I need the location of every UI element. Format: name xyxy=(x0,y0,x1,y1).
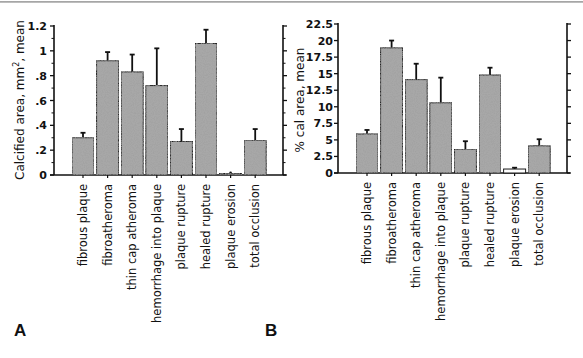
panel-b-ytick-label: 7.5 xyxy=(314,117,334,130)
panel-a-category-label: fibrous plaque xyxy=(76,184,90,266)
panel-b-category-label: hemorrhage into plaque xyxy=(434,182,448,321)
panel-a-ytick-label: 1.2 xyxy=(28,20,48,33)
panel-a-bar-total-occlusion xyxy=(244,140,266,175)
panel-b-bar-total-occlusion xyxy=(528,146,550,173)
panel-b-ytick-label: 2.5 xyxy=(314,150,334,163)
panel-b-category-label: plaque rupture xyxy=(458,182,472,268)
panel-b-bars xyxy=(356,41,550,173)
panel-b-y-axis-title: % cal area, mean xyxy=(293,48,307,153)
panel-a-category-label: plaque erosion xyxy=(224,184,238,269)
panel-b-ytick-label: 15 xyxy=(318,68,333,81)
panel-a-bars xyxy=(72,30,266,175)
panel-a-bar-fibrous-plaque xyxy=(72,138,94,175)
panel-a-category-label: thin cap atheroma xyxy=(125,184,139,290)
panel-a-ytick-label: 1 xyxy=(39,45,47,58)
panel-b-category-label: healed rupture xyxy=(483,182,497,267)
panel-a-category-label: fibroatheroma xyxy=(101,184,115,266)
panel-a-bar-fibroatheroma xyxy=(97,61,119,175)
panel-b-bar-plaque-rupture xyxy=(454,149,476,173)
panel-label-b: B xyxy=(265,321,277,340)
panel-a-category-label: hemorrhage into plaque xyxy=(150,184,164,323)
panel-b-ytick-label: 20 xyxy=(318,35,334,48)
figure: 0.2.4.6.811.2 fibrous plaquefibroatherom… xyxy=(0,0,583,358)
panel-b-bar-thin-cap-atheroma xyxy=(405,80,427,173)
panel-b-category-label: plaque erosion xyxy=(508,182,522,267)
panel-a-category-labels: fibrous plaquefibroatheromathin cap athe… xyxy=(76,184,262,323)
panel-b-bar-hemorrhage-into-plaque xyxy=(430,103,452,173)
panel-a-bar-plaque-erosion xyxy=(220,174,242,176)
panel-label-a: A xyxy=(14,321,26,340)
panel-a-ytick-label: .6 xyxy=(35,95,47,108)
panel-a-bar-thin-cap-atheroma xyxy=(121,72,143,175)
panel-a-ytick-labels: 0.2.4.6.811.2 xyxy=(28,20,48,182)
panel-b-category-label: thin cap atheroma xyxy=(409,182,423,288)
panel-b-ytick-label: 0 xyxy=(325,167,333,180)
panel-a-bar-healed-rupture xyxy=(195,43,217,175)
panel-b-bar-healed-rupture xyxy=(479,75,501,173)
panel-b-bar-fibroatheroma xyxy=(381,48,403,173)
panel-a-y-axis-title: Calcified area, mm2, mean xyxy=(12,20,27,180)
panel-b-category-label: total occlusion xyxy=(532,182,546,266)
panel-b-ytick-label: 22.5 xyxy=(306,18,333,31)
panel-b-ytick-labels: 02.557.51012.51517.52022.5 xyxy=(306,18,333,180)
panel-b-category-label: fibroatheroma xyxy=(385,182,399,264)
panel-b-ytick-label: 12.5 xyxy=(306,84,333,97)
panel-a-bar-plaque-rupture xyxy=(170,141,192,175)
panel-b-ytick-label: 10 xyxy=(318,101,334,114)
chart-panel-b: 02.557.51012.51517.52022.5 fibrous plaqu… xyxy=(265,18,571,340)
panel-a-bar-hemorrhage-into-plaque xyxy=(146,86,168,175)
panel-b-bar-fibrous-plaque xyxy=(356,134,378,173)
panel-a-category-label: plaque rupture xyxy=(174,184,188,270)
panel-a-ytick-label: 0 xyxy=(39,169,47,182)
panel-a-category-label: healed rupture xyxy=(199,184,213,269)
panel-a-ytick-label: .4 xyxy=(35,119,47,132)
panel-b-category-labels: fibrous plaquefibroatheromathin cap athe… xyxy=(360,182,546,321)
panel-b-category-label: fibrous plaque xyxy=(360,182,374,264)
panel-a-category-label: total occlusion xyxy=(248,184,262,268)
panel-b-ytick-label: 17.5 xyxy=(306,51,333,64)
panel-a-ytick-label: .2 xyxy=(35,144,47,157)
panel-b-ytick-label: 5 xyxy=(325,134,333,147)
chart-panel-a: 0.2.4.6.811.2 fibrous plaquefibroatherom… xyxy=(12,20,287,340)
panel-b-bar-plaque-erosion xyxy=(504,169,526,173)
panel-a-ytick-label: .8 xyxy=(35,70,47,83)
